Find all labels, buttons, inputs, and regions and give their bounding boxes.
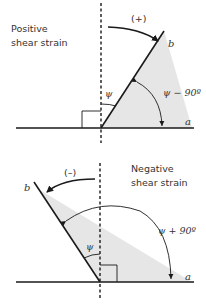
psi-label: ψ [105, 88, 113, 99]
sign-label: (–) [64, 167, 76, 178]
shaded-wedge [101, 31, 192, 128]
rotation-arrow-counterclockwise [47, 179, 95, 192]
sign-label: (+) [131, 13, 146, 24]
title-line2: shear strain [131, 177, 188, 188]
psi-label: ψ [86, 241, 94, 252]
angle-label: ψ + 90º [158, 225, 197, 236]
angle-label: ψ − 90º [163, 87, 202, 98]
line-b-label: b [24, 182, 30, 193]
rotation-arrow-clockwise [108, 27, 158, 41]
positive-shear-panel: Positive shear strain (+) b a ψ ψ − 90º [11, 3, 202, 143]
line-a-label: a [185, 271, 191, 282]
psi-arc [101, 104, 116, 106]
line-b-label: b [168, 38, 174, 49]
title-line1: Negative [131, 163, 174, 174]
right-angle-marker [82, 111, 101, 128]
title-line2: shear strain [11, 37, 68, 48]
title-line1: Positive [11, 23, 48, 34]
negative-shear-panel: Negative shear strain (–) b a ψ ψ + 90º [16, 163, 197, 300]
line-a-label: a [185, 116, 191, 127]
shear-strain-diagram: Positive shear strain (+) b a ψ ψ − 90º … [0, 0, 206, 307]
shaded-wedge [40, 190, 192, 282]
